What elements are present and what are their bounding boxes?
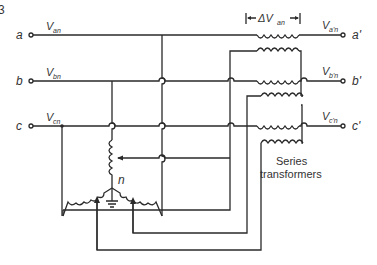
voltage-label-vc-prime-n: V c'n [322, 110, 338, 124]
line-a [33, 35, 341, 38]
terminal-b-prime-label: b' [352, 74, 362, 88]
terminal-b-node [29, 79, 33, 83]
svg-text:ΔV: ΔV [257, 12, 274, 24]
series-secondary-a [63, 48, 301, 210]
terminal-c-label: c [16, 119, 22, 133]
terminal-c-node [29, 124, 33, 128]
terminal-a-node [29, 33, 33, 37]
feed-from-a [162, 35, 165, 216]
wye-right-coil [112, 188, 162, 216]
terminal-a-label: a [16, 28, 23, 42]
terminal-c-prime-label: c' [352, 119, 361, 133]
svg-text:cn: cn [53, 118, 61, 125]
svg-text:bn: bn [53, 73, 61, 80]
corner-fragment: 3 [0, 3, 5, 17]
terminal-c-prime-node [341, 124, 345, 128]
svg-text:an: an [53, 27, 61, 34]
svg-text:a'n: a'n [329, 26, 338, 33]
terminal-b-prime-node [341, 79, 345, 83]
tap-arrow [117, 155, 230, 161]
line-b [33, 78, 341, 84]
voltage-label-va-prime-n: V a'n [322, 19, 338, 33]
svg-text:c'n: c'n [329, 117, 338, 124]
series-label-line2: transformers [260, 168, 322, 180]
tap-arrow-right [130, 197, 136, 233]
wye-vertical-coil [109, 140, 112, 188]
wye-left-coil [63, 188, 112, 216]
terminal-a-prime-node [341, 33, 345, 37]
voltage-label-van: V an [46, 20, 61, 34]
terminal-a-prime-label: a' [352, 28, 362, 42]
neutral-label: n [118, 173, 125, 187]
series-label-line1: Series [276, 155, 308, 167]
feed-from-b [112, 81, 115, 140]
voltage-label-vcn: V cn [46, 111, 61, 125]
svg-text:an: an [277, 19, 285, 26]
terminal-b-label: b [16, 74, 23, 88]
line-c [33, 123, 341, 129]
delta-v-annotation: ΔV an [246, 12, 300, 26]
svg-text:b'n: b'n [329, 72, 338, 79]
voltage-label-vbn: V bn [46, 66, 61, 80]
tap-arrow-left [94, 196, 100, 250]
regulating-transformer-diagram: 3 a b c V an V bn V cn V a'n [0, 0, 377, 265]
voltage-label-vb-prime-n: V b'n [322, 65, 338, 79]
